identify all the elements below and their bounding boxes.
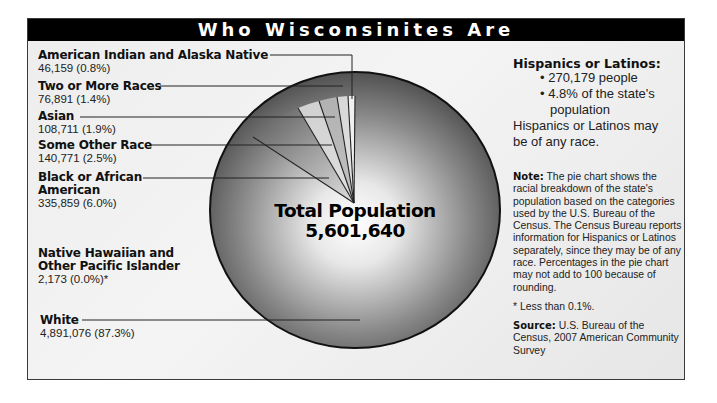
total-population-label: Total Population 5,601,640	[255, 201, 455, 241]
hispanic-note: Hispanics or Latinos may be of any race.	[513, 118, 673, 150]
asterisk-note: * Less than 0.1%.	[513, 301, 594, 312]
note-text: Note: The pie chart shows the racial bre…	[513, 171, 683, 294]
label-aian: American Indian and Alaska Native 46,159…	[38, 49, 268, 75]
source-text: Source: U.S. Bureau of the Census, 2007 …	[513, 320, 683, 357]
label-white: White 4,891,076 (87.3%)	[40, 314, 135, 340]
hispanic-bullet-2: • 4.8% of the state's	[540, 86, 655, 102]
label-some-other-race: Some Other Race 140,771 (2.5%)	[38, 139, 152, 165]
label-two-or-more: Two or More Races 76,891 (1.4%)	[38, 80, 161, 106]
label-asian: Asian 108,711 (1.9%)	[38, 110, 116, 136]
hispanic-bullet-2-cont: population	[550, 102, 610, 118]
hispanic-title: Hispanics or Latinos:	[513, 56, 661, 71]
label-black: Black or African American 335,859 (6.0%)	[38, 171, 142, 210]
hispanic-bullet-1: • 270,179 people	[540, 70, 638, 86]
label-nhpi: Native Hawaiian and Other Pacific Island…	[38, 247, 180, 286]
